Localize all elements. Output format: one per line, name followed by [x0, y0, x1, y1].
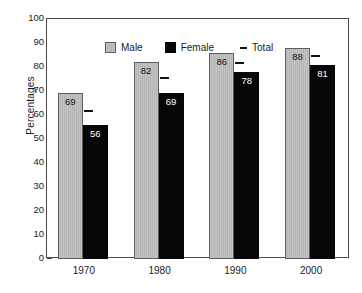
total-marker: [84, 110, 93, 112]
legend-dash-total-icon: [240, 47, 247, 49]
y-tick-label: 100: [16, 13, 44, 23]
y-tick-label: 70: [16, 85, 44, 95]
legend-item-male: Male: [105, 42, 143, 53]
legend-swatch-female-icon: [165, 42, 176, 53]
y-tick-label: 10: [16, 229, 44, 239]
bar-value-label: 86: [210, 56, 233, 67]
legend-item-female: Female: [165, 42, 214, 53]
legend-item-total: Total: [240, 42, 273, 53]
bar-female: 69: [159, 93, 184, 259]
y-tick-label: 0: [16, 253, 44, 263]
bar-chart: Percentages 0102030405060708090100 69568…: [0, 0, 362, 293]
chart-legend: Male Female Total: [105, 42, 273, 53]
y-tick-label: 50: [16, 133, 44, 143]
legend-label-female: Female: [181, 42, 214, 53]
x-tick-label: 1970: [54, 265, 114, 276]
y-tick-label: 40: [16, 157, 44, 167]
bar-female: 78: [234, 72, 259, 259]
x-tick-label: 1990: [205, 265, 265, 276]
y-tick-label: 60: [16, 109, 44, 119]
bar-female: 56: [83, 125, 108, 259]
bar-value-label: 78: [235, 75, 258, 86]
total-marker: [311, 55, 320, 57]
legend-label-male: Male: [121, 42, 143, 53]
y-tick-label: 30: [16, 181, 44, 191]
bar-value-label: 69: [160, 96, 183, 107]
y-tick-label: 20: [16, 205, 44, 215]
legend-swatch-male-icon: [105, 42, 116, 53]
x-tick-label: 1980: [130, 265, 190, 276]
y-tick-label: 90: [16, 37, 44, 47]
bar-male: 82: [134, 62, 159, 259]
bar-value-label: 69: [59, 96, 82, 107]
y-axis-title: Percentages: [25, 36, 36, 176]
bar-value-label: 82: [135, 65, 158, 76]
y-tick-mark: [47, 258, 52, 259]
total-marker: [160, 77, 169, 79]
bar-value-label: 88: [286, 51, 309, 62]
y-tick-label: 80: [16, 61, 44, 71]
total-marker: [235, 62, 244, 64]
bar-female: 81: [310, 65, 335, 259]
bar-value-label: 81: [311, 68, 334, 79]
bar-male: 88: [285, 48, 310, 259]
legend-label-total: Total: [252, 42, 273, 53]
bar-male: 69: [58, 93, 83, 259]
bar-value-label: 56: [84, 128, 107, 139]
x-tick-label: 2000: [281, 265, 341, 276]
plot-area: 6956826986788881 Male Female Total: [46, 18, 349, 258]
bar-male: 86: [209, 53, 234, 259]
